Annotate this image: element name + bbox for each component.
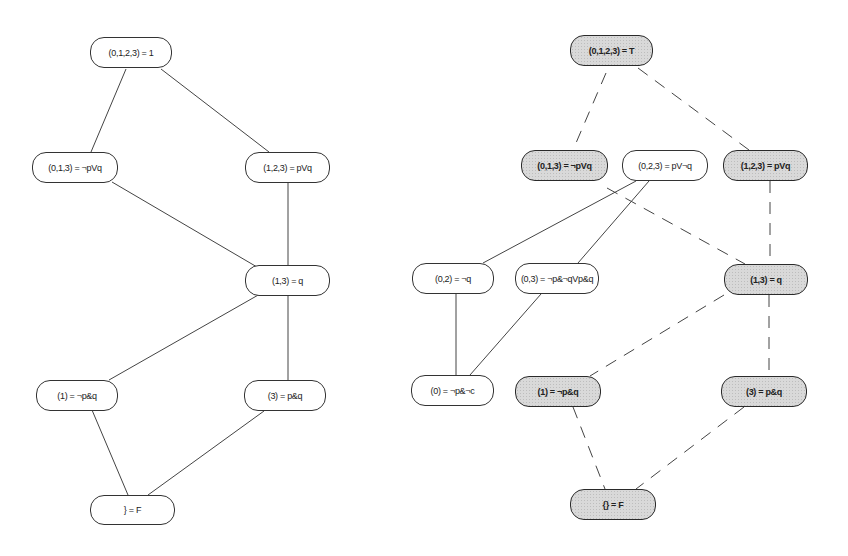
lattice-node: (0,1,3) = ¬pVq bbox=[521, 150, 608, 181]
lattice-node: (3) = p&q bbox=[244, 380, 326, 411]
lattice-node: (1,2,3) = pVq bbox=[723, 150, 808, 181]
node-label: (0,3) = ¬p&¬qVp&q bbox=[521, 274, 593, 284]
lattice-node: (0,1,2,3) = T bbox=[570, 35, 653, 66]
lattice-node: (0,3) = ¬p&¬qVp&q bbox=[515, 263, 599, 294]
node-label: (1) = ¬p&q bbox=[537, 387, 578, 397]
edge-L013-L13 bbox=[112, 182, 257, 267]
edge-R1-RF bbox=[573, 407, 605, 489]
node-label: (0,1,3) = ¬pVq bbox=[48, 163, 101, 173]
lattice-node: (1,2,3) = pVq bbox=[245, 152, 330, 183]
node-label: (0,2) = ¬q bbox=[435, 274, 471, 284]
edge-R0123-R013 bbox=[573, 73, 606, 150]
edge-L3-LF bbox=[148, 411, 264, 495]
lattice-node: (0) = ¬p&¬c bbox=[411, 375, 494, 406]
edge-R13-R1 bbox=[590, 295, 724, 376]
node-label: (1) = ¬p&q bbox=[57, 391, 97, 401]
node-label: (1,3) = q bbox=[750, 275, 782, 285]
edge-L0123-L013 bbox=[91, 69, 126, 152]
edge-R0123-R123 bbox=[638, 68, 749, 150]
edge-L0123-L123 bbox=[161, 69, 269, 152]
node-label: (0,1,2,3) = T bbox=[589, 46, 634, 56]
edge-R013-R13 bbox=[607, 188, 745, 264]
node-label: (1,2,3) = pVq bbox=[741, 161, 790, 171]
node-label: (3) = p&q bbox=[268, 391, 303, 401]
edge-R3-RF bbox=[636, 407, 744, 489]
lattice-node: (1,3) = q bbox=[245, 265, 330, 296]
node-label: (0,1,2,3) = 1 bbox=[109, 48, 154, 58]
edge-R03-R0 bbox=[470, 294, 541, 375]
node-label: } = F bbox=[124, 505, 141, 515]
edge-L1-LF bbox=[92, 410, 128, 495]
lattice-node: (3) = p&q bbox=[721, 376, 807, 407]
node-label: (0) = ¬p&¬c bbox=[431, 386, 475, 396]
lattice-node: (0,1,3) = ¬pVq bbox=[32, 152, 118, 183]
lattice-node: (1) = ¬p&q bbox=[515, 376, 601, 407]
node-label: (0,2,3) = pV¬q bbox=[638, 161, 691, 171]
lattice-node: (1,3) = q bbox=[724, 264, 808, 295]
edge-L13-L1 bbox=[109, 294, 260, 380]
node-label: (1,2,3) = pVq bbox=[263, 163, 311, 173]
node-label: (0,1,3) = ¬pVq bbox=[537, 161, 591, 171]
lattice-node: } = F bbox=[90, 495, 175, 525]
node-label: {} = F bbox=[603, 500, 624, 510]
lattice-node: (0,1,2,3) = 1 bbox=[90, 37, 172, 68]
node-label: (3) = p&q bbox=[746, 387, 782, 397]
lattice-node: (1) = ¬p&q bbox=[36, 380, 118, 411]
lattice-node: (0,2,3) = pV¬q bbox=[622, 150, 708, 181]
node-label: (1,3) = q bbox=[272, 276, 303, 286]
lattice-node: {} = F bbox=[570, 489, 656, 520]
lattice-node: (0,2) = ¬q bbox=[412, 263, 494, 294]
